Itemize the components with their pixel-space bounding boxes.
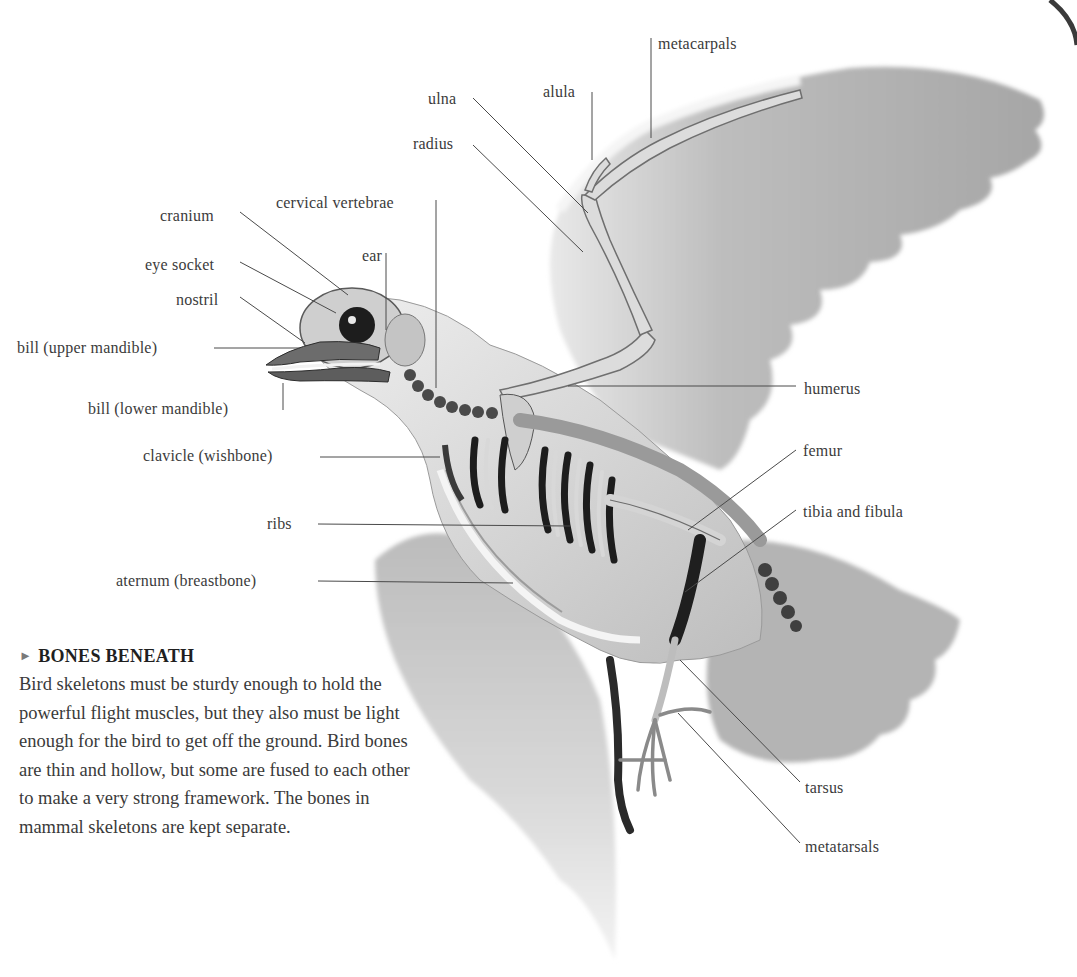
caption-title-text: BONES BENEATH <box>38 644 194 668</box>
label-eye-socket: eye socket <box>145 256 214 274</box>
label-metacarpals: metacarpals <box>658 35 737 53</box>
label-bill-lower: bill (lower mandible) <box>88 400 228 418</box>
label-radius: radius <box>413 135 453 153</box>
legs-and-feet <box>610 640 710 830</box>
leader-line-eye-socket <box>240 262 336 313</box>
label-humerus: humerus <box>804 380 861 398</box>
label-alula: alula <box>543 83 575 101</box>
label-femur: femur <box>803 442 842 460</box>
label-clavicle: clavicle (wishbone) <box>143 447 273 465</box>
label-tibia-fibula: tibia and fibula <box>803 503 903 521</box>
leader-line-ulna <box>473 98 588 213</box>
label-cervical-vertebrae: cervical vertebrae <box>276 194 394 212</box>
label-cranium: cranium <box>160 207 214 225</box>
label-ear: ear <box>362 247 382 265</box>
label-metatarsals: metatarsals <box>805 838 879 856</box>
triangle-marker-icon: ► <box>19 644 32 668</box>
label-bill-upper: bill (upper mandible) <box>17 339 157 357</box>
label-nostril: nostril <box>176 291 218 309</box>
label-tarsus: tarsus <box>805 779 844 797</box>
label-ribs: ribs <box>267 515 292 533</box>
bill-lower-shape <box>268 368 390 383</box>
upper-wing-feathers <box>550 67 1044 470</box>
leader-line-cranium <box>240 212 348 295</box>
page-corner-curve <box>1050 0 1077 45</box>
eye-socket-shape <box>339 307 375 343</box>
label-ulna: ulna <box>428 90 456 108</box>
caption-body: Bird skeletons must be sturdy enough to … <box>19 670 419 842</box>
leader-line-nostril <box>240 297 305 343</box>
caption-block: ► BONES BENEATH Bird skeletons must be s… <box>19 644 419 842</box>
label-sternum: aternum (breastbone) <box>116 572 256 590</box>
caption-title: ► BONES BENEATH <box>19 644 419 668</box>
